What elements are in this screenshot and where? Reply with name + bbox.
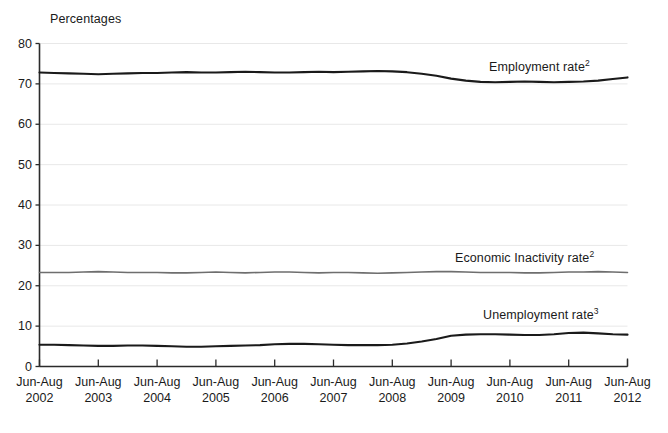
x-axis-label-year: 2007	[301, 390, 367, 406]
x-axis-label-year: 2009	[418, 390, 484, 406]
x-axis-label-year: 2005	[183, 390, 249, 406]
series-annotation-footnote: 3	[594, 306, 599, 316]
y-axis-label-60: 60	[2, 117, 32, 131]
series-annotation-0: Employment rate2	[489, 60, 590, 74]
y-axis-label-30: 30	[2, 238, 32, 252]
x-axis-label-year: 2006	[242, 390, 308, 406]
x-axis-label-2012: Jun-Aug2012	[595, 374, 661, 406]
y-axis-label-70: 70	[2, 77, 32, 91]
x-axis-label-period: Jun-Aug	[124, 374, 190, 390]
series-annotation-text: Unemployment rate	[483, 308, 594, 322]
series-annotation-footnote: 2	[589, 249, 594, 259]
x-axis-label-2003: Jun-Aug2003	[65, 374, 131, 406]
x-axis-label-year: 2003	[65, 390, 131, 406]
x-axis-label-period: Jun-Aug	[65, 374, 131, 390]
x-axis-label-year: 2010	[477, 390, 543, 406]
x-axis-label-period: Jun-Aug	[7, 374, 73, 390]
y-axis-label-80: 80	[2, 37, 32, 51]
x-axis-label-2006: Jun-Aug2006	[242, 374, 308, 406]
y-axis-label-10: 10	[2, 319, 32, 333]
series-annotation-text: Employment rate	[489, 60, 585, 74]
x-axis-label-year: 2004	[124, 390, 190, 406]
series-annotation-1: Economic Inactivity rate2	[455, 251, 594, 265]
x-axis-label-2007: Jun-Aug2007	[301, 374, 367, 406]
chart-container: Percentages 01020304050607080 Jun-Aug200…	[0, 0, 668, 433]
x-axis-label-period: Jun-Aug	[477, 374, 543, 390]
x-axis-label-year: 2011	[536, 390, 602, 406]
x-axis-label-2008: Jun-Aug2008	[359, 374, 425, 406]
y-axis-label-0: 0	[2, 360, 32, 374]
x-axis-label-2002: Jun-Aug2002	[7, 374, 73, 406]
x-axis-label-2011: Jun-Aug2011	[536, 374, 602, 406]
series-annotation-2: Unemployment rate3	[483, 308, 599, 322]
x-axis-label-period: Jun-Aug	[536, 374, 602, 390]
y-axis-label-40: 40	[2, 198, 32, 212]
series-annotation-footnote: 2	[585, 58, 590, 68]
x-axis-label-2009: Jun-Aug2009	[418, 374, 484, 406]
x-axis-label-period: Jun-Aug	[301, 374, 367, 390]
series-line-2	[40, 333, 628, 347]
y-axis-label-50: 50	[2, 158, 32, 172]
x-axis-label-year: 2008	[359, 390, 425, 406]
x-axis-label-period: Jun-Aug	[183, 374, 249, 390]
x-axis-label-period: Jun-Aug	[359, 374, 425, 390]
x-axis-ticks	[40, 360, 628, 367]
y-axis-label-20: 20	[2, 279, 32, 293]
x-axis-label-year: 2012	[595, 390, 661, 406]
x-axis-label-period: Jun-Aug	[242, 374, 308, 390]
series-lines	[40, 71, 628, 347]
x-axis-label-2010: Jun-Aug2010	[477, 374, 543, 406]
series-annotation-text: Economic Inactivity rate	[455, 251, 589, 265]
x-axis-label-period: Jun-Aug	[418, 374, 484, 390]
x-axis-label-year: 2002	[7, 390, 73, 406]
series-line-1	[40, 272, 628, 274]
x-axis-label-period: Jun-Aug	[595, 374, 661, 390]
x-axis-label-2005: Jun-Aug2005	[183, 374, 249, 406]
x-axis-label-2004: Jun-Aug2004	[124, 374, 190, 406]
